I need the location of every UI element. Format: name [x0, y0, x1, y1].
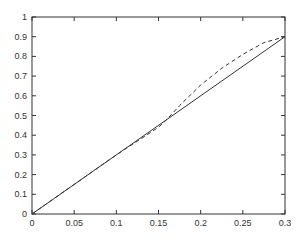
x-tick-label: 0.3 — [279, 218, 292, 228]
y-tick-label: 0 — [22, 209, 27, 219]
x-axis-tick-labels: 00.050.10.150.20.250.3 — [29, 218, 291, 228]
x-tick-label: 0 — [29, 218, 34, 228]
y-tick-label: 0.9 — [14, 32, 27, 42]
x-tick-label: 0.05 — [65, 218, 83, 228]
series-layer — [32, 37, 285, 214]
x-tick-label: 0.15 — [150, 218, 168, 228]
axis-ticks — [32, 17, 285, 214]
plot-frame — [32, 17, 285, 214]
y-tick-label: 0.8 — [14, 51, 27, 61]
y-tick-label: 0.1 — [14, 189, 27, 199]
y-axis-tick-labels: 00.10.20.30.40.50.60.70.80.91 — [14, 12, 27, 219]
y-tick-label: 0.4 — [14, 130, 27, 140]
y-tick-label: 0.3 — [14, 150, 27, 160]
series-solid-line — [32, 37, 285, 214]
y-tick-label: 1 — [22, 12, 27, 22]
y-tick-label: 0.2 — [14, 170, 27, 180]
line-chart: 00.050.10.150.20.250.3 00.10.20.30.40.50… — [0, 0, 304, 242]
x-tick-label: 0.1 — [110, 218, 123, 228]
y-tick-label: 0.7 — [14, 71, 27, 81]
x-tick-label: 0.2 — [194, 218, 207, 228]
y-tick-label: 0.5 — [14, 111, 27, 121]
x-tick-label: 0.25 — [234, 218, 252, 228]
y-tick-label: 0.6 — [14, 91, 27, 101]
